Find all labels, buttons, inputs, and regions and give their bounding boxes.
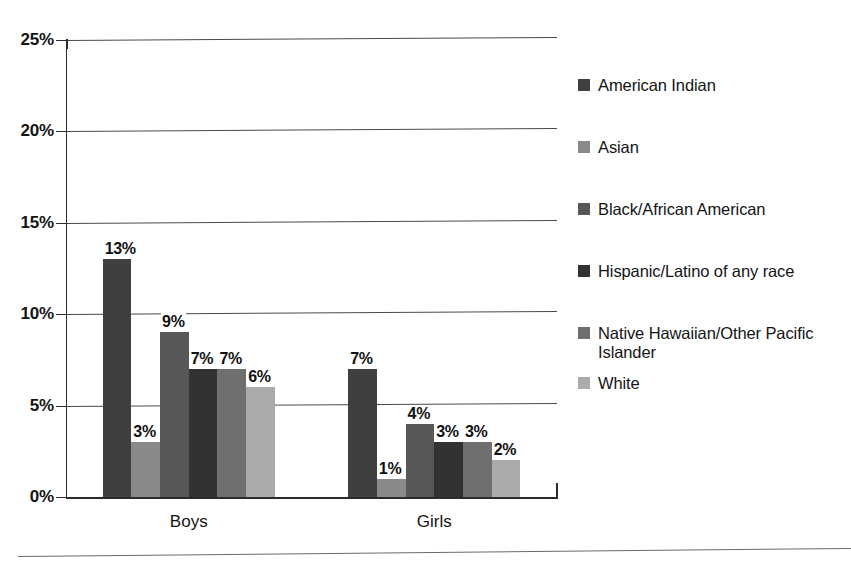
bar-value-label: 7% xyxy=(190,350,215,367)
bar xyxy=(160,332,189,497)
bar-value-label: 1% xyxy=(378,460,403,477)
legend-item-label: White xyxy=(598,374,640,393)
legend-swatch-icon xyxy=(578,203,590,215)
bar-value-label: 3% xyxy=(132,423,157,440)
legend-item-label: Black/African American xyxy=(598,200,765,219)
y-axis-tick-label: 25% xyxy=(0,30,54,50)
y-axis-tick-label-text: 0% xyxy=(2,487,54,507)
legend-swatch-icon xyxy=(578,327,590,339)
legend-item-label: Native Hawaiian/Other Pacific Islander xyxy=(598,324,846,362)
legend-item-label: Asian xyxy=(598,138,639,157)
y-axis-tick-label-text: 15% xyxy=(2,213,54,233)
bar xyxy=(492,460,521,497)
grid-line xyxy=(66,403,557,407)
bar xyxy=(217,369,246,497)
legend-item[interactable]: Asian xyxy=(578,138,846,157)
grid-line xyxy=(66,220,557,224)
bar xyxy=(348,369,377,497)
x-axis-category-label: Girls xyxy=(374,512,494,532)
legend-item-label: American Indian xyxy=(598,76,716,95)
bar-value-label: 3% xyxy=(464,423,489,440)
bar xyxy=(463,442,492,497)
bar xyxy=(406,424,435,497)
bar xyxy=(434,442,463,497)
plot-area: 13%3%9%7%7%6%7%1%4%3%3%2% xyxy=(66,40,557,497)
y-axis-tick-label-text: 20% xyxy=(2,121,54,141)
grid-line xyxy=(66,128,557,132)
bar-value-label: 3% xyxy=(435,423,460,440)
bar-value-label: 4% xyxy=(407,405,432,422)
legend-swatch-icon xyxy=(578,265,590,277)
y-axis-tick-label: 20% xyxy=(0,121,54,141)
bar-value-label: 9% xyxy=(161,313,186,330)
bar xyxy=(131,442,160,497)
y-axis-tick-label: 15% xyxy=(0,213,54,233)
bar-value-label: 7% xyxy=(349,350,374,367)
y-axis-top-cap xyxy=(66,39,68,49)
grid-line xyxy=(66,311,557,315)
x-axis-right-tick xyxy=(556,483,558,498)
bar-value-label: 13% xyxy=(104,240,137,257)
y-axis-tick-label: 10% xyxy=(0,304,54,324)
y-axis-tick-label: 0% xyxy=(0,487,54,507)
bar xyxy=(103,259,132,497)
legend-item-label: Hispanic/Latino of any race xyxy=(598,262,794,281)
y-axis-tick-label-text: 25% xyxy=(2,30,54,50)
x-axis-line xyxy=(66,497,558,499)
grid-line xyxy=(66,37,557,41)
legend-swatch-icon xyxy=(578,377,590,389)
bar-value-label: 6% xyxy=(247,368,272,385)
bar xyxy=(377,479,406,497)
legend-item[interactable]: Native Hawaiian/Other Pacific Islander xyxy=(578,324,846,362)
y-axis-tick-label-text: 10% xyxy=(2,304,54,324)
y-axis-tick-label: 5% xyxy=(0,396,54,416)
x-axis-category-label: Boys xyxy=(129,512,249,532)
legend-item[interactable]: White xyxy=(578,374,846,393)
legend-swatch-icon xyxy=(578,141,590,153)
legend-swatch-icon xyxy=(578,79,590,91)
bar-value-label: 7% xyxy=(218,350,243,367)
legend-item[interactable]: American Indian xyxy=(578,76,846,95)
bar-value-label: 2% xyxy=(493,441,518,458)
bar xyxy=(246,387,275,497)
y-axis-tick-label-text: 5% xyxy=(2,396,54,416)
bottom-divider-rule xyxy=(18,548,851,557)
legend-item[interactable]: Hispanic/Latino of any race xyxy=(578,262,846,281)
bar-chart: 25%20%15%10%5%0% 13%3%9%7%7%6%7%1%4%3%3%… xyxy=(0,0,851,570)
y-axis-line xyxy=(66,40,67,498)
legend-item[interactable]: Black/African American xyxy=(578,200,846,219)
bar xyxy=(189,369,218,497)
